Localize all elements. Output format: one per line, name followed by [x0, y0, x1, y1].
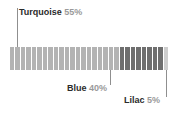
callout-lilac: Lilac 5%: [124, 95, 160, 106]
bar-track: [10, 47, 168, 70]
bar-segment-turquoise: [109, 47, 113, 70]
bar-segment-turquoise: [32, 47, 36, 70]
callout-lilac-value: 5%: [147, 95, 160, 105]
callout-lilac-label: Lilac: [124, 95, 145, 105]
callout-turquoise-label: Turquoise: [19, 7, 62, 17]
bar-segment-blue: [147, 47, 151, 70]
bar-segment-turquoise: [21, 47, 25, 70]
bar-segment-turquoise: [76, 47, 80, 70]
bar-segment-turquoise: [92, 47, 96, 70]
bar-segment-turquoise: [26, 47, 30, 70]
callout-blue: Blue 40%: [67, 83, 107, 94]
bar-segment-turquoise: [70, 47, 74, 70]
segmented-bar-chart: Turquoise 55% Blue 40% Lilac 5%: [0, 0, 176, 116]
bar-segment-turquoise: [87, 47, 91, 70]
callout-blue-value: 40%: [89, 83, 107, 93]
callout-turquoise: Turquoise 55%: [19, 7, 82, 18]
callout-blue-label: Blue: [67, 83, 87, 93]
bar-segment-turquoise: [15, 47, 19, 70]
bar-segment-turquoise: [98, 47, 102, 70]
bar-segment-turquoise: [43, 47, 47, 70]
bar-segment-turquoise: [10, 47, 14, 70]
leader-line-turquoise: [17, 8, 18, 52]
bar-segment-turquoise: [48, 47, 52, 70]
bar-segment-blue: [131, 47, 135, 70]
bar-segment-blue: [142, 47, 146, 70]
bar-segment-turquoise: [54, 47, 58, 70]
bar-segment-blue: [153, 47, 157, 70]
bar-segment-blue: [136, 47, 140, 70]
bar-segment-turquoise: [65, 47, 69, 70]
bar-segment-blue: [158, 47, 162, 70]
bar-segment-turquoise: [59, 47, 63, 70]
bar-segment-turquoise: [103, 47, 107, 70]
bar-segment-turquoise: [114, 47, 118, 70]
callout-turquoise-value: 55%: [64, 7, 82, 17]
bar-segment-lilac: [164, 47, 168, 70]
bar-segment-blue: [125, 47, 129, 70]
bar-segment-turquoise: [37, 47, 41, 70]
bar-segment-blue: [120, 47, 124, 70]
bar-segment-turquoise: [81, 47, 85, 70]
